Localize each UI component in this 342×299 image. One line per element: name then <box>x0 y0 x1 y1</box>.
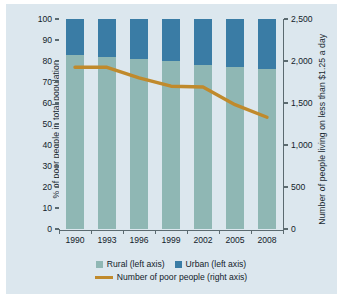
page-margin-right <box>337 0 342 299</box>
x-axis-tick <box>91 230 92 234</box>
urban-color-swatch-icon <box>175 261 182 268</box>
legend-label-rural: Rural (left axis) <box>107 260 165 269</box>
page-margin-top <box>0 0 342 4</box>
y-axis-left-tick-label: 10 <box>42 204 52 213</box>
y-axis-left-tick-label: 20 <box>42 183 52 192</box>
poor-people-polyline <box>75 67 267 117</box>
page-margin-bottom <box>0 294 342 299</box>
legend-row-2: Number of poor people (right axis) <box>59 271 283 284</box>
y-axis-right-title: Number of people living on less than $1.… <box>318 29 327 229</box>
y-axis-left-tick-label: 0 <box>47 225 52 234</box>
legend-label-poor-people: Number of poor people (right axis) <box>117 273 247 282</box>
y-axis-right-tick <box>284 60 288 61</box>
rural-color-swatch-icon <box>96 261 103 268</box>
y-axis-right-line <box>283 19 284 230</box>
y-axis-left-tick-label: 70 <box>42 78 52 87</box>
y-axis-right-tick <box>284 102 288 103</box>
y-axis-right-tick <box>284 186 288 187</box>
chart-figure: % of poor people in total population Num… <box>0 0 342 299</box>
chart-legend: Rural (left axis) Urban (left axis) Numb… <box>59 258 283 284</box>
line-color-swatch-icon <box>95 276 113 279</box>
legend-label-urban: Urban (left axis) <box>186 260 247 269</box>
y-axis-left-tick-label: 30 <box>42 162 52 171</box>
x-axis-tick <box>123 230 124 234</box>
x-axis-tick <box>283 230 284 234</box>
x-axis-tick <box>219 230 220 234</box>
plot-area <box>59 19 283 229</box>
legend-item-urban: Urban (left axis) <box>175 260 247 269</box>
y-axis-right-tick <box>284 144 288 145</box>
y-axis-right-tick <box>284 18 288 19</box>
page-margin-left <box>0 0 6 299</box>
poor-people-line-series <box>59 19 283 229</box>
y-axis-right-tick-label: 0 <box>291 225 296 234</box>
y-axis-left-tick-label: 50 <box>42 120 52 129</box>
legend-item-poor-people: Number of poor people (right axis) <box>95 273 247 282</box>
x-axis-tick-label: 2008 <box>247 236 287 245</box>
x-axis-tick <box>155 230 156 234</box>
y-axis-left-tick-label: 90 <box>42 36 52 45</box>
y-axis-left-tick-label: 100 <box>38 15 52 24</box>
y-axis-right-tick-label: 2,000 <box>291 57 313 66</box>
legend-row-1: Rural (left axis) Urban (left axis) <box>59 258 283 271</box>
y-axis-right-tick-label: 1,000 <box>291 141 313 150</box>
y-axis-left-tick-label: 60 <box>42 99 52 108</box>
y-axis-right-tick-label: 500 <box>291 183 305 192</box>
x-axis-tick <box>59 230 60 234</box>
y-axis-left-tick-label: 40 <box>42 141 52 150</box>
y-axis-right-tick-label: 1,500 <box>291 99 313 108</box>
y-axis-right-tick <box>284 228 288 229</box>
y-axis-right-tick-label: 2,500 <box>291 15 313 24</box>
x-axis-tick <box>187 230 188 234</box>
legend-item-rural: Rural (left axis) <box>96 260 165 269</box>
x-axis-tick <box>251 230 252 234</box>
y-axis-left-tick-label: 80 <box>42 57 52 66</box>
